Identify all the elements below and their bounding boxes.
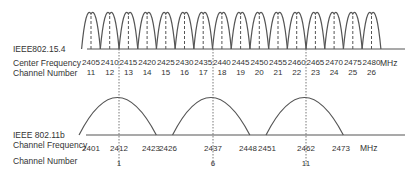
zigbee-channel-value: 16 — [180, 69, 189, 77]
zigbee-frequency-value: 2455 — [269, 59, 287, 67]
zigbee-channel-value: 12 — [105, 69, 114, 77]
zigbee-channel-value: 23 — [311, 69, 320, 77]
wifi-channel-value: 11 — [302, 160, 310, 168]
zigbee-channel-value: 14 — [143, 69, 152, 77]
zigbee-channel-value: 21 — [274, 69, 283, 77]
wifi-frequency-value: 2423 — [142, 145, 160, 153]
wifi-frequency-value: 2451 — [258, 145, 276, 153]
wifi-frequency-value: 2462 — [297, 145, 315, 153]
wifi-channel-arc — [173, 98, 250, 136]
zigbee-frequency-value: 2430 — [176, 59, 194, 67]
zigbee-channel-value: 20 — [255, 69, 264, 77]
wifi-channel-value: 6 — [211, 160, 215, 168]
zigbee-frequency-value: 2470 — [325, 59, 343, 67]
zigbee-frequency-value: 2405 — [82, 59, 100, 67]
wifi-frequency-value: 2401 — [82, 145, 100, 153]
wifi-unit-label: MHz — [360, 144, 377, 153]
zigbee-channel-number-label: Channel Number — [13, 69, 77, 78]
channel-frequency-label: Channel Frequency — [13, 141, 87, 150]
zigbee-frequency-value: 2420 — [138, 59, 156, 67]
zigbee-channel-value: 22 — [292, 69, 301, 77]
zigbee-standard-label: IEEE802.15.4 — [13, 45, 65, 54]
zigbee-channel-value: 15 — [161, 69, 170, 77]
zigbee-unit-label: MHz — [380, 59, 397, 68]
zigbee-channel-value: 11 — [87, 69, 95, 77]
zigbee-channel-value: 26 — [367, 69, 376, 77]
zigbee-frequency-value: 2445 — [232, 59, 250, 67]
wifi-channel-value: 1 — [117, 160, 121, 168]
zigbee-frequency-value: 2465 — [306, 59, 324, 67]
zigbee-frequency-value: 2410 — [101, 59, 119, 67]
zigbee-frequency-value: 2475 — [344, 59, 362, 67]
zigbee-frequency-value: 2435 — [194, 59, 212, 67]
zigbee-channel-value: 24 — [330, 69, 339, 77]
zigbee-channel-value: 18 — [217, 69, 226, 77]
zigbee-frequency-value: 2450 — [250, 59, 268, 67]
zigbee-frequency-value: 2480 — [363, 59, 381, 67]
wifi-channel-arc — [79, 98, 156, 136]
wifi-channel-number-label: Channel Number — [13, 157, 77, 166]
zigbee-frequency-value: 2425 — [157, 59, 175, 67]
zigbee-channel-value: 25 — [348, 69, 357, 77]
wifi-frequency-value: 2437 — [204, 145, 222, 153]
wifi-frequency-value: 2473 — [332, 145, 350, 153]
zigbee-frequency-value: 2460 — [288, 59, 306, 67]
wifi-frequency-value: 2448 — [239, 145, 257, 153]
center-frequency-label: Center Frequency — [13, 59, 81, 68]
wifi-standard-label: IEEE 802.11b — [13, 131, 65, 140]
wifi-frequency-value: 2412 — [110, 145, 128, 153]
zigbee-channel-value: 17 — [199, 69, 208, 77]
wifi-channel-arc — [266, 98, 343, 136]
zigbee-channel-value: 19 — [236, 69, 245, 77]
wifi-frequency-value: 2426 — [159, 145, 177, 153]
zigbee-frequency-value: 2440 — [213, 59, 231, 67]
zigbee-channel-arcs — [82, 12, 381, 49]
zigbee-channel-value: 13 — [124, 69, 133, 77]
zigbee-frequency-value: 2415 — [119, 59, 137, 67]
